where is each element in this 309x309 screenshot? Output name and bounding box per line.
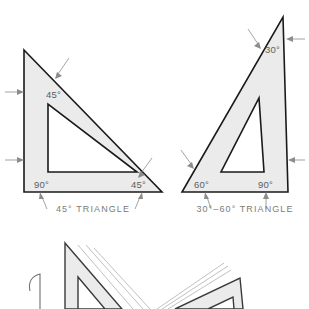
thirty-sixty-base-left-angle-label: 60° <box>194 179 209 190</box>
thirty-sixty-triangle-group: 30° 60° 90° 30°–60° TRIANGLE <box>181 17 305 214</box>
forty-five-triangle-body <box>24 50 162 192</box>
lower-figures-group <box>29 243 243 309</box>
forty-five-apex-angle-label: 45° <box>46 89 61 100</box>
thirty-sixty-right-angle-label: 90° <box>258 179 273 190</box>
figure-canvas: 45° 90° 45° 45° TRIANGLE <box>0 0 309 309</box>
thirty-sixty-triangle-caption: 30°–60° TRIANGLE <box>196 204 293 214</box>
drafting-triangles-figure: 45° 90° 45° 45° TRIANGLE <box>0 0 309 309</box>
forty-five-triangle-caption: 45° TRIANGLE <box>56 204 130 214</box>
lower-left-arc <box>29 274 40 309</box>
forty-five-triangle-group: 45° 90° 45° 45° TRIANGLE <box>5 50 162 214</box>
forty-five-right-angle-label: 90° <box>34 179 49 190</box>
thirty-sixty-apex-angle-label: 30° <box>265 44 280 55</box>
forty-five-base-right-angle-label: 45° <box>131 179 146 190</box>
